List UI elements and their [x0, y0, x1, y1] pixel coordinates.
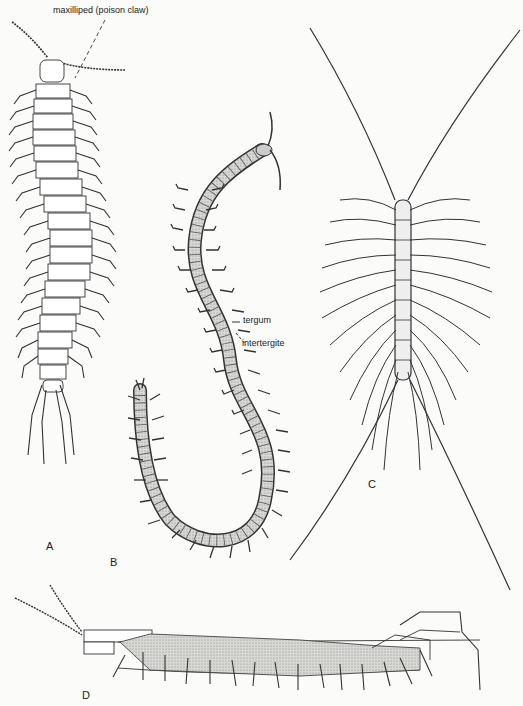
- panel-label-d: D: [82, 689, 90, 701]
- centipede-c-drawing: [290, 28, 520, 590]
- panel-label-a: A: [46, 540, 53, 552]
- centipede-b-drawing: [128, 112, 290, 558]
- panel-label-b: B: [110, 556, 117, 568]
- intertergite-annotation: intertergite: [242, 338, 285, 348]
- panel-label-c: C: [368, 478, 376, 490]
- centipede-a-drawing: [9, 20, 125, 464]
- centipede-d-drawing: [15, 585, 480, 690]
- tergum-annotation: tergum: [243, 315, 271, 325]
- centipede-illustrations: [0, 0, 523, 706]
- figure-canvas: maxilliped (poison claw) tergum interter…: [0, 0, 523, 706]
- maxilliped-annotation: maxilliped (poison claw): [53, 5, 149, 15]
